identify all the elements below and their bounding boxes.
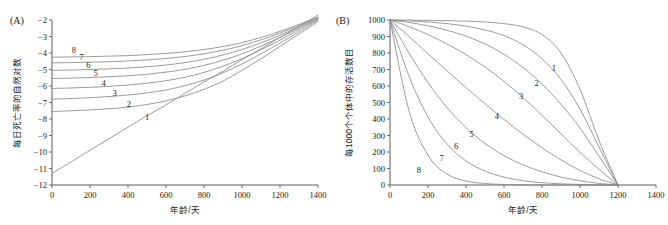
curve-7 xyxy=(390,20,618,185)
y-tick-label: 600 xyxy=(372,81,385,91)
curve-label-5: 5 xyxy=(94,68,98,78)
x-tick-label: 1000 xyxy=(572,190,589,200)
x-axis-ticks: 0200400600800100012001400 xyxy=(388,185,665,200)
x-tick-label: 600 xyxy=(498,190,511,200)
y-tick-label: −11 xyxy=(34,164,47,174)
curve-2 xyxy=(52,22,318,112)
y-axis-title: 每1000个个体中的存活数目 xyxy=(344,48,354,157)
x-tick-label: 1400 xyxy=(310,190,327,200)
panel-tag: (B) xyxy=(336,15,349,27)
panel-a-mortality: (A)−2−3−4−5−6−7−8−9−10−11−12020040060080… xyxy=(0,0,334,225)
curve-label-2: 2 xyxy=(535,78,539,88)
x-axis-title: 年龄/天 xyxy=(508,205,537,215)
x-tick-label: 600 xyxy=(160,190,173,200)
curve-5 xyxy=(390,20,618,185)
x-tick-label: 200 xyxy=(84,190,97,200)
curve-1 xyxy=(390,20,618,185)
curve-6 xyxy=(390,20,618,185)
curve-2 xyxy=(390,20,618,185)
curve-3 xyxy=(390,20,618,185)
y-tick-label: 500 xyxy=(372,98,385,108)
x-axis-title: 年龄/天 xyxy=(170,205,199,215)
y-axis-title: 每日死亡率的自然对数 xyxy=(12,58,22,148)
x-tick-label: 1400 xyxy=(648,190,665,200)
curve-group xyxy=(390,20,618,185)
x-tick-label: 800 xyxy=(536,190,549,200)
y-tick-label: −4 xyxy=(38,48,48,58)
curve-8 xyxy=(390,20,618,185)
y-tick-label: 200 xyxy=(372,147,385,157)
y-tick-label: −10 xyxy=(34,147,47,157)
y-tick-label: −6 xyxy=(38,81,47,91)
x-tick-label: 800 xyxy=(198,190,211,200)
curve-label-3: 3 xyxy=(113,88,117,98)
y-tick-label: 100 xyxy=(372,164,385,174)
curve-4 xyxy=(52,19,318,88)
y-tick-label: 300 xyxy=(372,131,385,141)
y-tick-label: −3 xyxy=(38,32,47,42)
curve-label-3: 3 xyxy=(519,91,523,101)
y-tick-label: −2 xyxy=(38,15,47,25)
curve-8 xyxy=(52,17,318,57)
panel-b-survivorship: (B)0100200300400500600700800900100002004… xyxy=(334,0,668,225)
curve-label-6: 6 xyxy=(86,60,90,70)
panel-tag: (A) xyxy=(10,15,24,27)
y-tick-label: −5 xyxy=(38,65,47,75)
curve-label-1: 1 xyxy=(145,112,149,122)
x-tick-label: 400 xyxy=(122,190,135,200)
x-tick-label: 0 xyxy=(50,190,54,200)
y-tick-label: −9 xyxy=(38,131,47,141)
survival-mortality-figure: (A)−2−3−4−5−6−7−8−9−10−11−12020040060080… xyxy=(0,0,668,225)
curve-label-4: 4 xyxy=(495,111,500,121)
curve-label-6: 6 xyxy=(454,141,458,151)
y-tick-label: 1000 xyxy=(368,15,385,25)
curve-label-7: 7 xyxy=(79,52,83,62)
curve-label-8: 8 xyxy=(417,165,421,175)
curve-label-2: 2 xyxy=(127,99,131,109)
x-tick-label: 1200 xyxy=(272,190,289,200)
curve-labels: 12345678 xyxy=(417,63,556,175)
y-tick-label: 900 xyxy=(372,32,385,42)
x-tick-label: 1200 xyxy=(610,190,627,200)
curve-4 xyxy=(390,20,618,185)
axes xyxy=(52,20,318,185)
x-axis-ticks: 0200400600800100012001400 xyxy=(50,185,327,200)
x-tick-label: 400 xyxy=(460,190,473,200)
panel-a-plot: (A)−2−3−4−5−6−7−8−9−10−11−12020040060080… xyxy=(0,0,334,225)
curve-label-1: 1 xyxy=(552,63,556,73)
y-axis-ticks: −2−3−4−5−6−7−8−9−10−11−12 xyxy=(34,15,52,190)
curve-7 xyxy=(52,18,318,63)
curve-label-5: 5 xyxy=(470,129,474,139)
axis-spines xyxy=(52,20,318,185)
x-tick-label: 1000 xyxy=(234,190,251,200)
curve-label-7: 7 xyxy=(440,153,444,163)
y-tick-label: −12 xyxy=(34,180,47,190)
y-tick-label: 800 xyxy=(372,48,385,58)
y-tick-label: −8 xyxy=(38,114,47,124)
y-tick-label: 700 xyxy=(372,65,385,75)
y-axis-ticks: 01002003004005006007008009001000 xyxy=(368,15,390,190)
y-tick-label: 0 xyxy=(381,180,385,190)
curve-label-4: 4 xyxy=(102,78,107,88)
x-tick-label: 0 xyxy=(388,190,392,200)
y-tick-label: −7 xyxy=(38,98,47,108)
x-tick-label: 200 xyxy=(422,190,435,200)
panel-b-plot: (B)0100200300400500600700800900100002004… xyxy=(334,0,668,225)
y-tick-label: 400 xyxy=(372,114,385,124)
curve-label-8: 8 xyxy=(72,45,76,55)
curve-group xyxy=(52,15,318,173)
